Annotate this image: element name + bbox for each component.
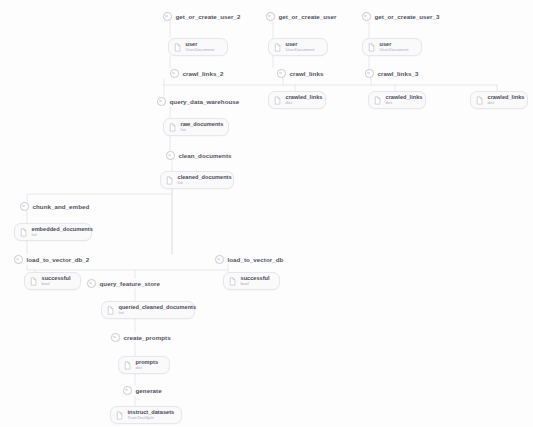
artifact-node-successful_1[interactable]: successfulbool [223, 272, 280, 290]
artifact-text: successfulbool [42, 276, 71, 287]
document-icon [106, 306, 115, 315]
pipeline-dag-canvas[interactable]: get_or_create_user_2get_or_create_userge… [0, 0, 533, 427]
step-status-icon [277, 69, 286, 78]
step-node-crawl_links[interactable]: crawl_links [277, 68, 323, 79]
step-status-icon [111, 333, 120, 342]
artifact-type: list [119, 311, 197, 315]
step-node-load_to_vector_db_2[interactable]: load_to_vector_db_2 [14, 254, 89, 265]
step-node-get_or_create_user[interactable]: get_or_create_user [266, 11, 337, 22]
artifact-text: crawled_linksdict [286, 95, 323, 106]
artifact-name: prompts [136, 360, 159, 366]
artifact-text: cleaned_documentslist [178, 175, 232, 186]
artifact-name: successful [42, 276, 71, 282]
artifact-text: instruct_datasetsTrainTestSplit [128, 410, 175, 421]
step-status-icon [362, 12, 371, 21]
step-label: load_to_vector_db_2 [27, 256, 90, 263]
artifact-type: bool [42, 282, 71, 286]
artifact-text: userUserDocument [186, 42, 215, 53]
artifact-node-user_3[interactable]: userUserDocument [362, 38, 422, 56]
artifact-name: embedded_documents [32, 227, 93, 233]
step-status-icon [266, 12, 275, 21]
artifact-type: list [181, 128, 224, 132]
step-node-generate[interactable]: generate [123, 385, 162, 396]
artifact-name: user [186, 42, 215, 48]
artifact-name: queried_cleaned_documents [119, 305, 197, 311]
artifact-text: embedded_documentslist [32, 227, 93, 238]
step-node-query_data_warehouse[interactable]: query_data_warehouse [157, 96, 239, 107]
artifact-node-cleaned_documents[interactable]: cleaned_documentslist [160, 171, 234, 189]
step-node-crawl_links_2[interactable]: crawl_links_2 [170, 68, 223, 79]
step-status-icon [166, 151, 175, 160]
artifact-name: cleaned_documents [178, 175, 232, 181]
document-icon [273, 96, 282, 105]
artifact-type: dict [286, 101, 323, 105]
document-icon [373, 96, 382, 105]
step-node-get_or_create_user_2[interactable]: get_or_create_user_2 [163, 11, 240, 22]
step-status-icon [20, 202, 29, 211]
artifact-type: UserDocument [380, 48, 409, 52]
step-label: clean_documents [179, 152, 232, 159]
step-node-create_prompts[interactable]: create_prompts [111, 332, 171, 343]
step-node-query_feature_store[interactable]: query_feature_store [87, 278, 160, 289]
dag-edge [27, 265, 228, 270]
artifact-name: instruct_datasets [128, 410, 175, 416]
artifact-text: raw_documentslist [181, 122, 224, 133]
step-label: crawl_links_3 [378, 70, 419, 77]
step-label: get_or_create_user_3 [375, 13, 440, 20]
step-label: query_feature_store [100, 280, 160, 287]
artifact-text: userUserDocument [380, 42, 409, 53]
artifact-type: dict [386, 101, 423, 105]
artifact-text: crawled_linksdict [386, 95, 423, 106]
artifact-name: crawled_links [286, 95, 323, 101]
step-node-chunk_and_embed[interactable]: chunk_and_embed [20, 201, 89, 212]
document-icon [475, 96, 484, 105]
artifact-name: user [380, 42, 409, 48]
artifact-node-user_1[interactable]: userUserDocument [268, 38, 328, 56]
artifact-node-crawled_links_3[interactable]: crawled_linksdict [470, 91, 528, 109]
document-icon [273, 43, 282, 52]
step-label: crawl_links_2 [183, 70, 224, 77]
step-status-icon [87, 279, 96, 288]
step-status-icon [163, 12, 172, 21]
dag-edge [27, 188, 172, 201]
step-node-get_or_create_user_3[interactable]: get_or_create_user_3 [362, 11, 439, 22]
artifact-type: TrainTestSplit [128, 416, 175, 420]
artifact-type: list [178, 181, 232, 185]
artifact-node-crawled_links_2[interactable]: crawled_linksdict [368, 91, 426, 109]
artifact-type: dict [136, 366, 159, 370]
artifact-text: successfulbool [241, 276, 270, 287]
artifact-name: raw_documents [181, 122, 224, 128]
artifact-node-instruct_datasets[interactable]: instruct_datasetsTrainTestSplit [110, 406, 182, 424]
artifact-node-successful_2[interactable]: successfulbool [24, 272, 81, 290]
artifact-node-crawled_links_1[interactable]: crawled_linksdict [268, 91, 326, 109]
step-label: query_data_warehouse [170, 98, 240, 105]
step-label: get_or_create_user [279, 13, 337, 20]
artifact-node-queried_cleaned_documents[interactable]: queried_cleaned_documentslist [101, 301, 195, 319]
artifact-name: crawled_links [488, 95, 525, 101]
artifact-type: dict [488, 101, 525, 105]
artifact-node-prompts[interactable]: promptsdict [118, 356, 170, 374]
artifact-name: crawled_links [386, 95, 423, 101]
artifact-node-embedded_documents[interactable]: embedded_documentslist [14, 223, 92, 241]
artifact-text: crawled_linksdict [488, 95, 525, 106]
artifact-node-user_2[interactable]: userUserDocument [168, 38, 228, 56]
step-label: chunk_and_embed [33, 203, 90, 210]
artifact-name: successful [241, 276, 270, 282]
document-icon [168, 123, 177, 132]
artifact-type: UserDocument [286, 48, 315, 52]
step-label: get_or_create_user_2 [176, 13, 241, 20]
step-node-load_to_vector_db[interactable]: load_to_vector_db [215, 254, 283, 265]
artifact-node-raw_documents[interactable]: raw_documentslist [163, 118, 229, 136]
document-icon [367, 43, 376, 52]
artifact-type: UserDocument [186, 48, 215, 52]
document-icon [115, 411, 124, 420]
step-node-crawl_links_3[interactable]: crawl_links_3 [365, 68, 418, 79]
step-node-clean_documents[interactable]: clean_documents [166, 150, 232, 161]
step-status-icon [215, 255, 224, 264]
document-icon [165, 176, 174, 185]
document-icon [173, 43, 182, 52]
step-label: create_prompts [124, 334, 171, 341]
step-label: generate [136, 387, 162, 394]
artifact-type: list [32, 233, 93, 237]
document-icon [29, 277, 38, 286]
